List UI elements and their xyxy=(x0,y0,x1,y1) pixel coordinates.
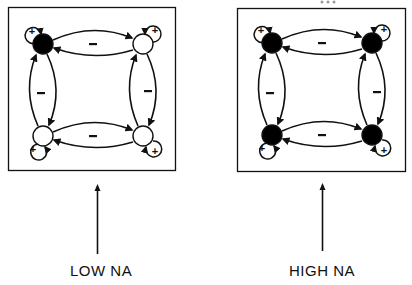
cropped-header-text xyxy=(321,1,336,4)
minus-sign xyxy=(37,92,45,94)
node-bottom-right-open xyxy=(133,126,153,146)
minus-sign xyxy=(318,134,326,136)
minus-sign xyxy=(144,90,152,92)
edge-br-bl xyxy=(54,140,133,148)
edge-bl-tl xyxy=(258,54,267,125)
node-top-left-filled xyxy=(262,33,282,53)
node-bottom-left-open xyxy=(33,126,53,146)
plus-sign: + xyxy=(29,25,35,37)
edge-tr-br xyxy=(376,53,385,124)
edge-tl-tr xyxy=(53,30,132,40)
minus-sign xyxy=(266,92,274,94)
high-na-panel: + + + + xyxy=(238,9,406,172)
low-na-label: LOW NA xyxy=(70,262,132,279)
plus-sign: + xyxy=(152,24,158,36)
edge-tr-tl xyxy=(54,48,133,56)
pointer-arrow-low-na xyxy=(95,184,101,254)
edge-tl-bl xyxy=(276,53,285,124)
minus-sign xyxy=(89,43,97,45)
node-top-left-filled xyxy=(33,34,53,54)
plus-sign: + xyxy=(152,145,158,157)
minus-sign xyxy=(373,91,381,93)
node-top-right-open xyxy=(133,34,153,54)
edge-bl-br xyxy=(282,121,361,131)
edge-br-tr xyxy=(358,54,367,125)
minus-sign xyxy=(318,42,326,44)
node-top-right-filled xyxy=(362,33,382,53)
edge-br-tr xyxy=(129,55,138,126)
edge-tr-tl xyxy=(283,47,362,55)
plus-sign: + xyxy=(381,144,387,156)
edge-tl-tr xyxy=(282,29,361,39)
edge-bl-br xyxy=(53,122,132,132)
network-diagram: + + + + + xyxy=(0,0,412,285)
low-na-panel: + + + + xyxy=(9,8,176,171)
node-bottom-left-filled xyxy=(262,125,282,145)
high-na-label: HIGH NA xyxy=(289,262,355,279)
plus-sign: + xyxy=(30,143,36,155)
node-bottom-right-filled xyxy=(362,125,382,145)
pointer-arrow-high-na xyxy=(320,183,326,251)
plus-sign: + xyxy=(259,142,265,154)
minus-sign xyxy=(89,135,97,137)
edge-br-bl xyxy=(283,139,362,147)
edge-bl-tl xyxy=(29,55,38,126)
plus-sign: + xyxy=(258,24,264,36)
edge-tl-bl xyxy=(47,54,56,125)
plus-sign: + xyxy=(381,23,387,35)
edge-tr-br xyxy=(147,54,156,125)
